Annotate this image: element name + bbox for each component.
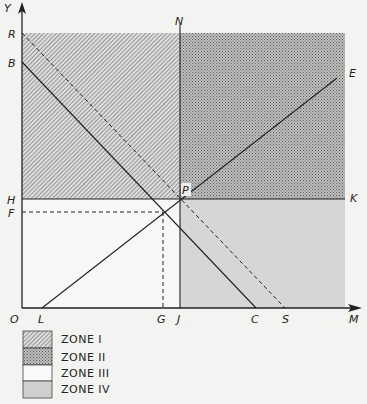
label-l: L	[38, 313, 44, 326]
label-y: Y	[4, 2, 12, 15]
legend-swatch-zone-ii	[23, 348, 52, 365]
zone-diagram: Y R B H F N E P K O L G J C S M ZONE I Z…	[0, 0, 367, 404]
label-r: R	[8, 28, 16, 41]
label-c: C	[251, 313, 259, 326]
legend-label-zone-iii: ZONE III	[61, 367, 110, 380]
label-g: G	[157, 313, 166, 326]
label-e: E	[349, 67, 356, 80]
label-o: O	[10, 313, 19, 326]
label-s: S	[282, 313, 289, 326]
label-f: F	[8, 207, 15, 220]
label-m: M	[349, 313, 359, 326]
legend: ZONE I ZONE II ZONE III ZONE IV	[23, 331, 110, 398]
legend-swatch-zone-iv	[23, 381, 52, 398]
label-b: B	[8, 57, 16, 70]
label-j: J	[175, 313, 180, 326]
legend-label-zone-i: ZONE I	[61, 333, 102, 346]
label-p: P	[182, 184, 189, 197]
label-n: N	[175, 15, 183, 28]
legend-label-zone-ii: ZONE II	[61, 351, 106, 364]
legend-swatch-zone-i	[23, 331, 52, 348]
label-h: H	[7, 194, 15, 207]
legend-label-zone-iv: ZONE IV	[61, 383, 110, 396]
legend-swatch-zone-iii	[23, 365, 52, 381]
zone-iii-region	[22, 199, 180, 308]
label-k: K	[350, 192, 358, 205]
zone-ii-region	[180, 33, 345, 199]
